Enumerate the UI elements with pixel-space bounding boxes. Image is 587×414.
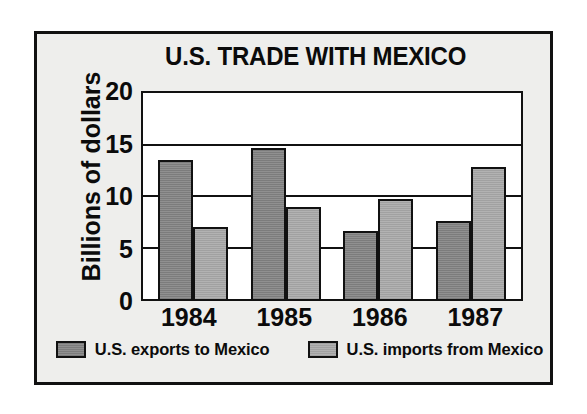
legend-swatch-exports <box>56 341 86 358</box>
x-tick-label: 1986 <box>332 305 428 330</box>
y-tick-label: 5 <box>119 236 133 261</box>
x-tick-label: 1984 <box>141 305 237 330</box>
bar-1987-exports[interactable] <box>436 221 471 301</box>
x-tick-label: 1987 <box>428 305 524 330</box>
bar-1984-imports[interactable] <box>193 227 228 301</box>
chart-legend: U.S. exports to MexicoU.S. imports from … <box>43 340 556 359</box>
bar-group-1984 <box>147 93 240 299</box>
bars-layer <box>143 93 521 299</box>
chart-figure: U.S. TRADE WITH MEXICO Billions of dolla… <box>34 31 553 385</box>
y-tick-label: 20 <box>105 79 133 104</box>
plot-area <box>141 91 523 301</box>
bar-1984-exports[interactable] <box>158 160 193 301</box>
y-tick-label: 10 <box>105 184 133 209</box>
bar-group-1986 <box>332 93 425 299</box>
bar-1986-imports[interactable] <box>378 199 413 301</box>
legend-item-exports[interactable]: U.S. exports to Mexico <box>56 340 270 359</box>
bar-group-1987 <box>425 93 518 299</box>
legend-item-imports[interactable]: U.S. imports from Mexico <box>308 340 544 359</box>
bar-1987-imports[interactable] <box>471 167 506 301</box>
y-tick-label: 0 <box>119 289 133 314</box>
plot-wrapper <box>141 91 523 301</box>
y-axis-tick-labels: 05101520 <box>93 91 137 301</box>
bar-group-1985 <box>240 93 333 299</box>
chart-title-text: U.S. TRADE WITH MEXICO <box>165 42 466 71</box>
legend-label-imports: U.S. imports from Mexico <box>347 340 544 359</box>
bar-1986-exports[interactable] <box>343 231 378 301</box>
bar-1985-exports[interactable] <box>251 148 286 301</box>
x-tick-label: 1985 <box>237 305 333 330</box>
chart-title: U.S. TRADE WITH MEXICO <box>47 42 539 71</box>
y-tick-label: 15 <box>105 131 133 156</box>
legend-swatch-imports <box>308 341 338 358</box>
legend-label-exports: U.S. exports to Mexico <box>95 340 270 359</box>
bar-1985-imports[interactable] <box>286 207 321 301</box>
x-axis-tick-labels: 1984198519861987 <box>141 305 523 330</box>
